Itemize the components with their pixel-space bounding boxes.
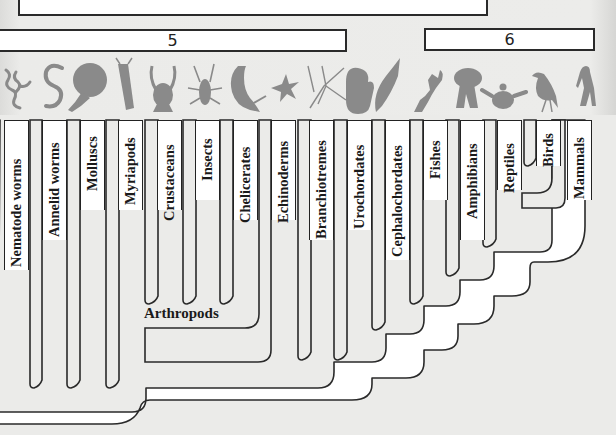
- branch-structure: [0, 0, 616, 435]
- taxon-insects[interactable]: Insects: [195, 120, 220, 200]
- taxon-reptiles[interactable]: Reptiles: [497, 120, 522, 190]
- taxon-nematode-worms[interactable]: Nematode worms: [4, 120, 29, 270]
- taxon-fishes[interactable]: Fishes: [423, 120, 448, 200]
- taxon-echinoderms[interactable]: Echinoderms: [271, 120, 296, 220]
- taxon-label: Molluscs: [84, 136, 101, 191]
- taxon-label: Chelicerates: [237, 147, 254, 224]
- taxon-label: Echinoderms: [275, 141, 292, 223]
- taxon-molluscs[interactable]: Molluscs: [80, 120, 105, 210]
- taxon-crustaceans[interactable]: Crustaceans: [157, 120, 182, 210]
- taxon-mammals[interactable]: Mammals: [567, 120, 592, 200]
- taxon-label: Amphibians: [464, 143, 481, 219]
- clade-label-arthropods: Arthropods: [144, 305, 219, 322]
- taxon-label: Branchiotremes: [313, 140, 330, 239]
- taxon-label: Urochordates: [351, 145, 368, 229]
- taxon-cephalochordates[interactable]: Cephalochordates: [385, 120, 410, 260]
- taxon-birds[interactable]: Birds: [536, 120, 561, 166]
- taxon-label: Fishes: [427, 140, 444, 179]
- taxon-label: Mammals: [571, 137, 588, 199]
- taxon-label: Annelid worms: [46, 142, 63, 237]
- taxon-label: Insects: [199, 138, 216, 181]
- taxon-branchiotremes[interactable]: Branchiotremes: [309, 120, 334, 240]
- taxon-label: Crustaceans: [161, 144, 178, 221]
- taxon-label: Nematode worms: [8, 159, 25, 267]
- taxon-label: Reptiles: [501, 143, 518, 193]
- taxon-label: Myriapods: [122, 137, 139, 205]
- taxon-annelid-worms[interactable]: Annelid worms: [42, 120, 67, 240]
- taxon-label: Cephalochordates: [389, 145, 406, 257]
- taxon-label: Birds: [540, 133, 557, 167]
- taxon-urochordates[interactable]: Urochordates: [347, 120, 372, 230]
- taxon-amphibians[interactable]: Amphibians: [460, 120, 485, 240]
- taxon-chelicerates[interactable]: Chelicerates: [233, 120, 258, 220]
- taxon-myriapods[interactable]: Myriapods: [118, 120, 143, 210]
